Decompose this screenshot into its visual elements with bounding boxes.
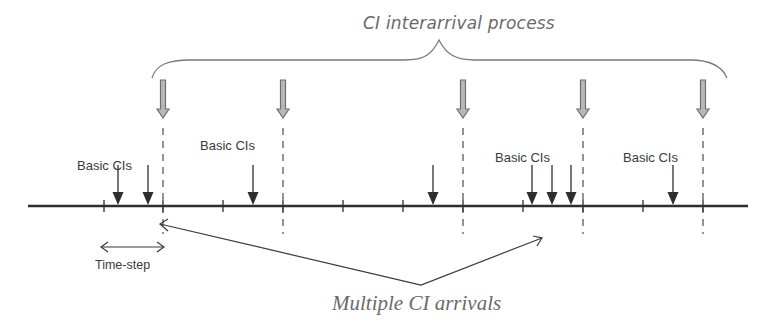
basic-ci-arrow-icon [113, 192, 124, 205]
basic-ci-arrow-icon [428, 192, 439, 205]
time-step-arrow-icon [101, 242, 164, 252]
interarrival-brace [152, 40, 727, 78]
basic-ci-arrows [113, 165, 679, 205]
basic-ci-arrow-icon [527, 192, 538, 205]
interarrival-process-title: CI interarrival process [363, 13, 555, 33]
basic-cis-label-2: Basic CIs [200, 138, 255, 153]
time-step-label: Time-step [95, 258, 150, 272]
basic-cis-label-1: Basic CIs [77, 158, 132, 173]
ci-arrival-arrows [157, 80, 709, 118]
ci-arrival-arrow-icon [697, 80, 709, 118]
ci-arrival-arrow-icon [157, 80, 169, 118]
ci-arrival-arrow-icon [457, 80, 469, 118]
multiple-arrivals-pointer-icon [160, 219, 542, 285]
basic-ci-arrow-icon [566, 192, 577, 205]
ci-arrival-arrow-icon [577, 80, 589, 118]
basic-ci-arrow-icon [668, 192, 679, 205]
basic-ci-arrow-icon [143, 192, 154, 205]
basic-cis-label-4: Basic CIs [623, 150, 678, 165]
diagram-canvas: CI interarrival process Basic CIs Basic … [0, 0, 767, 333]
ci-arrival-arrow-icon [277, 80, 289, 118]
basic-cis-label-3: Basic CIs [495, 150, 550, 165]
basic-ci-arrow-icon [547, 192, 558, 205]
basic-ci-arrow-icon [248, 192, 259, 205]
multiple-ci-arrivals-title: Multiple CI arrivals [332, 291, 501, 316]
